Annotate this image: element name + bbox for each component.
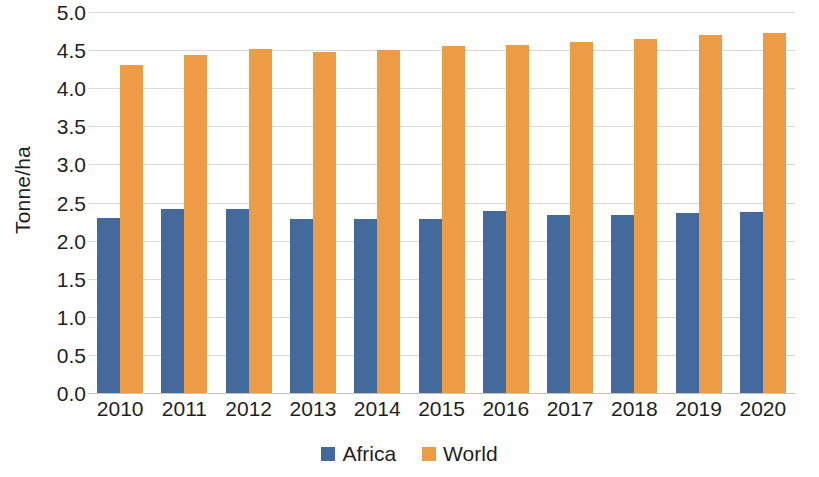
bar-world-2011 [184, 55, 207, 393]
bar-world-2015 [442, 46, 465, 393]
y-axis-tick-label: 0.0 [40, 383, 86, 404]
gridline [88, 393, 795, 394]
chart-legend: AfricaWorld [0, 443, 819, 464]
bar-world-2014 [377, 50, 400, 393]
bar-group [290, 12, 336, 393]
bar-group [547, 12, 593, 393]
legend-swatch-icon [321, 447, 335, 461]
bar-group [483, 12, 529, 393]
bar-group [740, 12, 786, 393]
plot-area [88, 12, 795, 393]
y-axis-tick-label: 2.0 [40, 230, 86, 251]
bar-africa-2016 [483, 211, 506, 393]
bar-group [226, 12, 272, 393]
bar-group [676, 12, 722, 393]
bar-world-2020 [763, 33, 786, 393]
y-axis-tick-label: 4.0 [40, 78, 86, 99]
bar-group [419, 12, 465, 393]
y-axis-tick-labels: 5.04.54.03.53.02.52.01.51.00.50.0 [40, 0, 86, 477]
bar-world-2012 [249, 49, 272, 393]
bar-world-2018 [634, 39, 657, 393]
legend-item-world[interactable]: World [422, 443, 497, 464]
bar-world-2017 [570, 42, 593, 393]
bar-africa-2020 [740, 212, 763, 393]
bar-group [161, 12, 207, 393]
bar-group [611, 12, 657, 393]
y-axis-tick-label: 2.5 [40, 192, 86, 213]
y-axis-tick-label: 1.5 [40, 268, 86, 289]
bar-africa-2018 [611, 215, 634, 393]
legend-swatch-icon [422, 447, 436, 461]
bar-group [97, 12, 143, 393]
legend-label: Africa [342, 443, 396, 464]
legend-label: World [443, 443, 497, 464]
bar-africa-2015 [419, 219, 442, 393]
bar-africa-2014 [354, 219, 377, 393]
y-axis-tick-label: 1.0 [40, 306, 86, 327]
bar-africa-2010 [97, 218, 120, 393]
y-axis-tick-label: 3.0 [40, 154, 86, 175]
bar-africa-2017 [547, 215, 570, 393]
y-axis-tick-label: 5.0 [40, 2, 86, 23]
bar-group [354, 12, 400, 393]
bar-chart: Tonne/ha 5.04.54.03.53.02.52.01.51.00.50… [0, 0, 819, 477]
bar-world-2016 [506, 45, 529, 393]
y-axis-tick-label: 4.5 [40, 40, 86, 61]
bar-africa-2019 [676, 213, 699, 393]
bars-layer [88, 12, 795, 393]
bar-world-2010 [120, 65, 143, 393]
bar-africa-2012 [226, 209, 249, 393]
bar-africa-2013 [290, 219, 313, 393]
x-axis-tick-labels: 2010201120122013201420152016201720182019… [88, 398, 795, 428]
bar-world-2019 [699, 35, 722, 393]
y-axis-title: Tonne/ha [11, 125, 35, 255]
bar-africa-2011 [161, 209, 184, 393]
y-axis-tick-label: 3.5 [40, 116, 86, 137]
x-axis-tick-label: 2020 [723, 398, 803, 419]
legend-item-africa[interactable]: Africa [321, 443, 396, 464]
bar-world-2013 [313, 52, 336, 393]
y-axis-tick-label: 0.5 [40, 344, 86, 365]
